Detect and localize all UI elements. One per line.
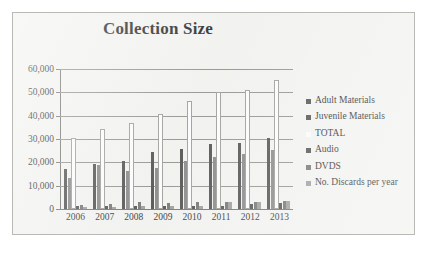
legend-swatch-icon [306, 132, 311, 137]
bar[interactable] [245, 90, 249, 209]
bar-group [235, 69, 264, 209]
legend-item[interactable]: Adult Materials [306, 96, 424, 106]
y-axis-tick [56, 69, 60, 70]
bar[interactable] [286, 201, 289, 209]
bar[interactable] [216, 92, 220, 209]
plot-area: 60,00050,00040,00030,00020,00010,0000 [60, 69, 293, 209]
y-axis-tick [56, 116, 60, 117]
bar-group [90, 69, 119, 209]
x-axis-label: 2013 [265, 212, 294, 222]
y-axis-tick [56, 186, 60, 187]
y-axis-tick [56, 162, 60, 163]
x-axis-label: 2009 [148, 212, 177, 222]
bar[interactable] [187, 101, 191, 210]
legend-swatch-icon [306, 148, 311, 153]
bar-group [206, 69, 235, 209]
y-axis-tick [56, 92, 60, 93]
x-axis-label: 2010 [178, 212, 207, 222]
x-axis-label: 2006 [61, 212, 90, 222]
bar[interactable] [141, 206, 144, 209]
y-axis-label: 50,000 [28, 87, 54, 97]
x-axis-label: 2011 [207, 212, 236, 222]
y-axis-label: 30,000 [28, 134, 54, 144]
bar-group [119, 69, 148, 209]
bar[interactable] [228, 202, 231, 209]
y-axis-tick [56, 209, 60, 210]
y-axis-label: 60,000 [28, 64, 54, 74]
legend-label: DVDS [315, 162, 341, 172]
y-axis-label: 0 [49, 204, 54, 214]
legend-item[interactable]: DVDS [306, 162, 424, 172]
legend-label: Juvenile Materials [315, 112, 385, 122]
legend-item[interactable]: Audio [306, 145, 424, 155]
legend-label: TOTAL [315, 129, 345, 139]
bar-group [177, 69, 206, 209]
x-axis-labels: 20062007200820092010201120122013 [61, 212, 294, 222]
legend-item[interactable]: No. Discards per year [306, 178, 424, 188]
bar-group [148, 69, 177, 209]
x-axis-label: 2008 [119, 212, 148, 222]
bar[interactable] [199, 206, 202, 209]
legend-label: Audio [315, 145, 339, 155]
chart-legend: Adult MaterialsJuvenile MaterialsTOTALAu… [306, 96, 424, 195]
legend-swatch-icon [306, 165, 311, 170]
legend-item[interactable]: Juvenile Materials [306, 112, 424, 122]
legend-swatch-icon [306, 99, 311, 104]
chart-container: Collection Size 60,00050,00040,00030,000… [12, 12, 415, 235]
bars-layer [61, 69, 293, 209]
bar[interactable] [274, 80, 278, 209]
legend-swatch-icon [306, 181, 311, 186]
bar[interactable] [100, 129, 104, 209]
y-axis-label: 20,000 [28, 157, 54, 167]
legend-label: No. Discards per year [315, 178, 398, 188]
bar[interactable] [71, 138, 75, 209]
bar[interactable] [158, 114, 162, 209]
x-axis-label: 2007 [90, 212, 119, 222]
y-axis-label: 10,000 [28, 181, 54, 191]
bar[interactable] [129, 123, 133, 209]
chart-title: Collection Size [13, 19, 303, 39]
bar[interactable] [257, 202, 260, 209]
bar[interactable] [170, 206, 173, 209]
bar-group [264, 69, 293, 209]
bar-group [61, 69, 90, 209]
legend-label: Adult Materials [315, 96, 375, 106]
bar[interactable] [83, 207, 86, 209]
legend-swatch-icon [306, 115, 311, 120]
y-axis-label: 40,000 [28, 111, 54, 121]
x-axis-label: 2012 [236, 212, 265, 222]
y-axis-tick [56, 139, 60, 140]
bar[interactable] [112, 207, 115, 209]
legend-item[interactable]: TOTAL [306, 129, 424, 139]
gridline [60, 209, 293, 210]
